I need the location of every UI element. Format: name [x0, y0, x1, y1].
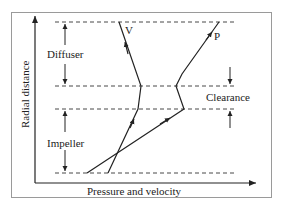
clearance-label: Clearance: [206, 91, 250, 103]
pressure-line: [87, 22, 219, 173]
pressure-arrow-impeller: [160, 118, 170, 124]
pump-pressure-velocity-diagram: Diffuser Impeller Clearance V P Pressure…: [0, 0, 281, 207]
impeller-label: Impeller: [47, 137, 85, 149]
y-axis-label: Radial distance: [19, 60, 31, 128]
pressure-arrow-diffuser: [206, 32, 212, 40]
x-axis-label: Pressure and velocity: [87, 185, 182, 197]
velocity-curve: [108, 22, 141, 173]
pressure-curve: [87, 22, 219, 173]
velocity-line: [108, 22, 141, 173]
diffuser-label: Diffuser: [47, 48, 84, 60]
velocity-label: V: [125, 24, 133, 36]
outer-frame: [12, 13, 272, 198]
pressure-label: P: [214, 30, 220, 42]
